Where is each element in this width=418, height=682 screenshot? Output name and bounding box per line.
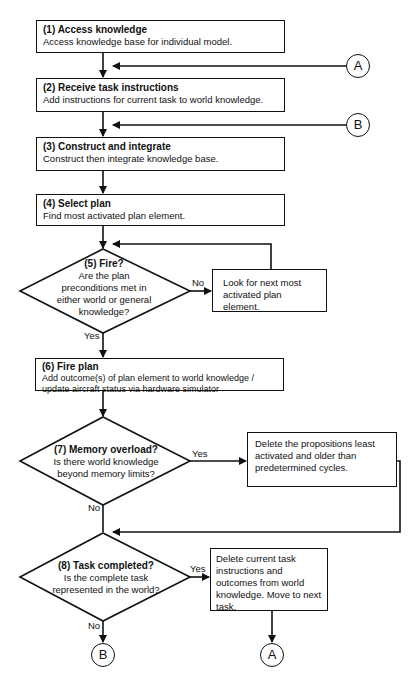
- decision-7-memory-overload: (7) Memory overload? Is there world know…: [48, 444, 164, 480]
- step-body: Delete the propositions least activated …: [255, 438, 389, 474]
- decision-5-fire: (5) Fire? Are the plan preconditions met…: [52, 258, 156, 318]
- step-2-receive-task: (2) Receive task instructions Add instru…: [36, 78, 285, 112]
- no-label: No: [88, 502, 100, 513]
- step-3-construct-integrate: (3) Construct and integrate Construct th…: [36, 137, 285, 171]
- step-title: (4) Select plan: [43, 198, 278, 210]
- step-1-access-knowledge: (1) Access knowledge Access knowledge ba…: [36, 20, 285, 53]
- decision-body: Are the plan preconditions met in either…: [52, 270, 156, 318]
- decision-8-task-completed: (8) Task completed? Is the complete task…: [50, 560, 162, 596]
- step-4-select-plan: (4) Select plan Find most activated plan…: [36, 194, 285, 226]
- connector-a-bottom: A: [260, 643, 284, 667]
- step-5-no-next-plan: Look for next most activated plan elemen…: [212, 269, 327, 312]
- connector-b-bottom: B: [91, 643, 115, 667]
- step-body: Delete current task instructions and out…: [216, 553, 322, 613]
- yes-label: Yes: [192, 448, 208, 459]
- step-7-yes-delete-propositions: Delete the propositions least activated …: [247, 432, 397, 487]
- step-body: Add instructions for current task to wor…: [43, 94, 278, 106]
- decision-title: (7) Memory overload?: [48, 444, 164, 456]
- step-title: (6) Fire plan: [42, 361, 277, 373]
- no-label: No: [88, 620, 100, 631]
- step-body: Look for next most activated plan elemen…: [223, 277, 316, 313]
- step-body: Add outcome(s) of plan element to world …: [42, 373, 277, 395]
- step-8-yes-next-task: Delete current task instructions and out…: [210, 548, 328, 611]
- connector-b-top: B: [346, 113, 370, 137]
- connector-a-top: A: [346, 54, 370, 78]
- step-title: (1) Access knowledge: [43, 24, 278, 36]
- step-body: Construct then integrate knowledge base.: [43, 153, 278, 165]
- step-6-fire-plan: (6) Fire plan Add outcome(s) of plan ele…: [35, 358, 284, 391]
- yes-label: Yes: [190, 563, 206, 574]
- yes-label: Yes: [84, 330, 100, 341]
- step-title: (2) Receive task instructions: [43, 82, 278, 94]
- no-label: No: [192, 277, 204, 288]
- decision-title: (5) Fire?: [52, 258, 156, 270]
- decision-body: Is there world knowledge beyond memory l…: [48, 456, 164, 480]
- step-body: Access knowledge base for individual mod…: [43, 36, 278, 48]
- step-title: (3) Construct and integrate: [43, 141, 278, 153]
- decision-body: Is the complete task represented in the …: [50, 572, 162, 596]
- step-body: Find most activated plan element.: [43, 210, 278, 222]
- decision-title: (8) Task completed?: [50, 560, 162, 572]
